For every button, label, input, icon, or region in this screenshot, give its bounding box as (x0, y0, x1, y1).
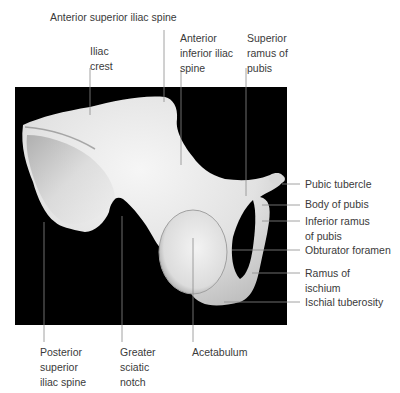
label-inferior-ramus-of-pubis: Inferior ramus of pubis (305, 214, 370, 244)
acetabulum-shape (159, 210, 227, 294)
label-obturator-foramen: Obturator foramen (305, 243, 391, 258)
label-pubic-tubercle: Pubic tubercle (305, 177, 372, 192)
label-body-of-pubis: Body of pubis (305, 197, 369, 212)
hip-bone-illustration (15, 87, 287, 325)
label-posterior-superior-iliac-spine: Posterior superior iliac spine (40, 345, 86, 390)
label-superior-ramus-of-pubis: Superior ramus of pubis (247, 31, 288, 76)
label-acetabulum: Acetabulum (192, 345, 247, 360)
label-greater-sciatic-notch: Greater sciatic notch (120, 345, 156, 390)
label-anterior-superior-iliac-spine: Anterior superior iliac spine (50, 10, 177, 25)
label-ischial-tuberosity: Ischial tuberosity (305, 295, 383, 310)
label-ramus-of-ischium: Ramus of ischium (305, 266, 350, 296)
bone-photo-panel (15, 87, 287, 325)
label-iliac-crest: Iliac crest (90, 44, 113, 74)
label-anterior-inferior-iliac-spine: Anterior inferior iliac spine (180, 31, 233, 76)
